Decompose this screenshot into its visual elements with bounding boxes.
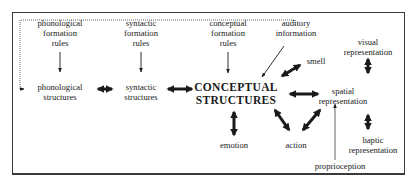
- node-haptic-representation: haptic representation: [349, 135, 398, 155]
- node-conceptual-formation-rules: conceptual formation rules: [209, 18, 246, 48]
- node-spatial-representation: spatial representation: [319, 86, 368, 106]
- arrow-conceptual-action: [275, 110, 289, 130]
- node-proprioception: proprioception: [315, 161, 366, 171]
- node-visual-representation: visual representation: [344, 37, 393, 57]
- node-action: action: [286, 140, 307, 150]
- arrow-action-spatial: [303, 110, 320, 130]
- node-syntactic-formation-rules: syntactic formation rules: [124, 18, 158, 48]
- node-smell: smell: [307, 56, 326, 66]
- node-conceptual-structures: CONCEPTUAL STRUCTURES: [194, 81, 278, 107]
- arrow-conceptual-smell: [282, 65, 300, 76]
- node-phonological-structures: phonological structures: [38, 82, 83, 102]
- node-phonological-formation-rules: phonological formation rules: [38, 18, 83, 48]
- node-auditory-information: auditory information: [276, 18, 317, 38]
- node-emotion: emotion: [220, 140, 248, 150]
- node-syntactic-structures: syntactic structures: [124, 82, 157, 102]
- arrow-auditory-to-conceptual: [262, 46, 284, 77]
